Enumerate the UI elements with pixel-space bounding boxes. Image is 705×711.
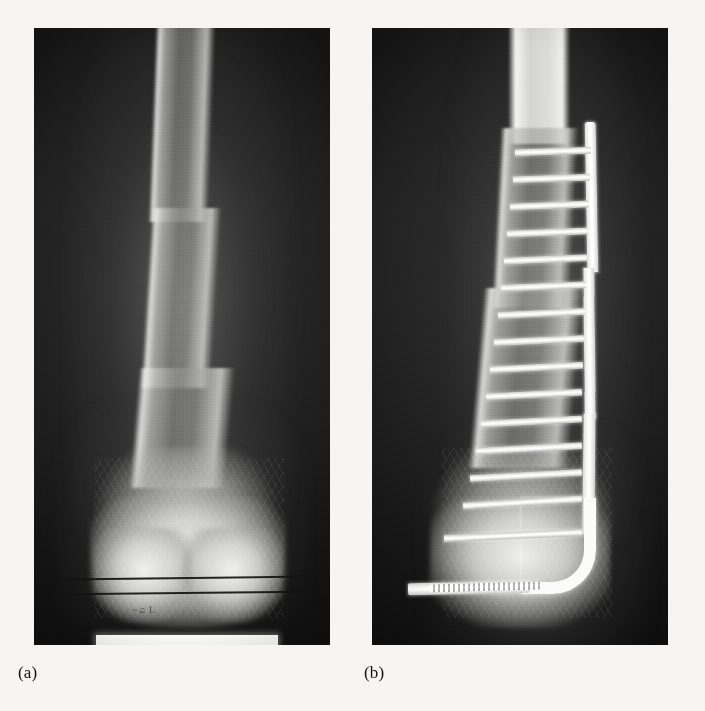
caption-panel-b: (b) (364, 663, 384, 683)
femoral-shaft-mid (140, 208, 221, 388)
femoral-shaft-proximal (148, 28, 216, 222)
panel-a-radiograph: ~ಎ L (34, 28, 330, 645)
positioning-marker-block (96, 635, 278, 645)
femoral-shaft-proximal-b (508, 28, 570, 144)
blade-plate-shaft-middle (583, 268, 596, 418)
panel-b-radiograph (372, 28, 668, 645)
caption-panel-a: (a) (18, 663, 37, 683)
handwritten-annotation: ~ಎ L (132, 603, 157, 616)
radiograph-figure: ~ಎ L (0, 0, 705, 711)
